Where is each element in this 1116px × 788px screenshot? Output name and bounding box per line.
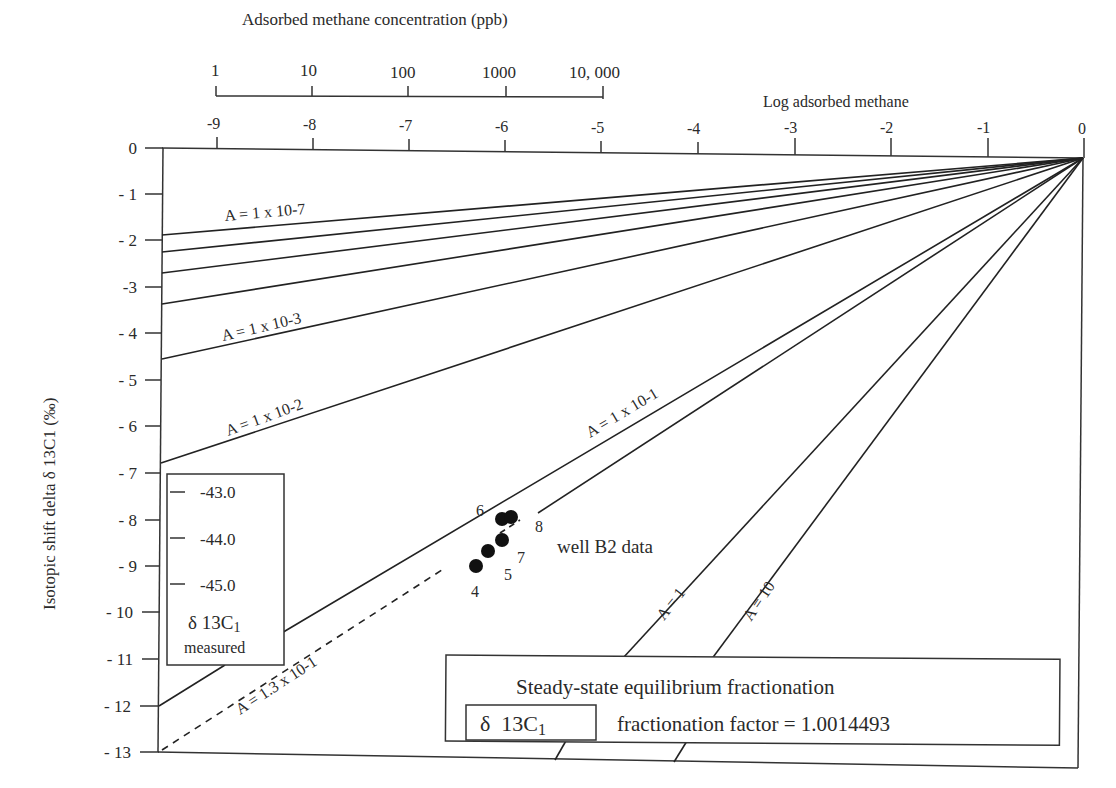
point-label-6: 6 xyxy=(476,502,484,519)
log-tick-m3: -3 xyxy=(784,119,797,136)
inset-tick-43: -43.0 xyxy=(200,483,235,502)
data-point-5 xyxy=(481,544,495,558)
line-a-1b xyxy=(623,158,1083,658)
y-tick-6: - 6 xyxy=(119,417,137,436)
conc-tick-10: 10 xyxy=(300,61,317,80)
y-tick-10: - 10 xyxy=(106,603,133,622)
concentration-axis: Adsorbed methane concentration (ppb) 1 1… xyxy=(211,10,620,99)
y-tick-8: - 8 xyxy=(119,511,137,530)
point-label-7: 7 xyxy=(517,549,525,566)
annotation-line2: fractionation factor = 1.0014493 xyxy=(617,712,890,736)
inset-tick-45: -45.0 xyxy=(200,576,235,595)
line-a-1e-7 xyxy=(162,158,1083,235)
log-tick-m6: -6 xyxy=(495,118,508,135)
log-tick-m4: -4 xyxy=(687,120,700,137)
log-tick-m5: -5 xyxy=(591,119,604,136)
fractionation-annotation-box: Steady-state equilibrium fractionation δ… xyxy=(445,655,1060,745)
data-point-8 xyxy=(504,510,518,524)
line-a-1e-3 xyxy=(162,158,1083,359)
annotation-line1: Steady-state equilibrium fractionation xyxy=(516,675,835,699)
label-a-1: A = 1 xyxy=(653,584,688,623)
log-tick-0: 0 xyxy=(1078,120,1086,137)
conc-tick-1000: 1000 xyxy=(482,63,516,82)
y-tick-0: 0 xyxy=(129,139,138,158)
line-a-1e-1b xyxy=(280,158,1083,634)
line-a-1e-1 xyxy=(159,665,225,706)
line-a-10 xyxy=(674,741,687,762)
y-tick-11: - 11 xyxy=(107,650,133,669)
well-b2-data: 4 5 7 6 8 well B2 data xyxy=(469,502,654,600)
y-axis-title: Isotopic shift delta δ 13C1 (‰) xyxy=(40,398,59,610)
line-labels: A = 1 x 10-7 A = 1 x 10-3 A = 1 x 10-2 A… xyxy=(220,200,778,718)
log-tick-m1: -1 xyxy=(977,119,990,136)
y-axis: 0 - 1 - 2 -3 - 4 - 5 - 6 - 7 - 8 - 9 - 1… xyxy=(40,139,163,762)
annotation-delta-symbol: δ 13C1 xyxy=(480,711,546,738)
label-a-1e-3: A = 1 x 10-3 xyxy=(220,309,303,344)
label-a-1e-2: A = 1 x 10-2 xyxy=(223,395,305,439)
y-tick-1: - 1 xyxy=(119,185,137,204)
y-tick-2: - 2 xyxy=(119,231,137,250)
y-tick-4: - 4 xyxy=(119,324,138,343)
y-tick-9: - 9 xyxy=(119,557,137,576)
point-label-5: 5 xyxy=(504,566,512,583)
log-tick-m7: -7 xyxy=(399,117,412,134)
point-label-4: 4 xyxy=(471,583,479,600)
conc-tick-10000: 10, 000 xyxy=(569,63,620,82)
concentration-axis-title: Adsorbed methane concentration (ppb) xyxy=(242,10,508,29)
inset-measured-label: measured xyxy=(184,639,245,656)
line-a-1e-4 xyxy=(162,158,1083,304)
inset-measured-scale: -43.0 -44.0 -45.0 δ 13C1 measured xyxy=(167,474,284,665)
y-tick-13: - 13 xyxy=(104,743,131,762)
label-a-1e-7: A = 1 x 10-7 xyxy=(224,200,306,224)
data-point-7 xyxy=(495,533,509,547)
conc-tick-100: 100 xyxy=(390,63,416,82)
label-a-10: A = 10 xyxy=(739,578,778,624)
line-a-1e-1c xyxy=(538,158,1083,513)
well-b2-label: well B2 data xyxy=(557,536,654,557)
conc-tick-1: 1 xyxy=(211,61,220,80)
y-tick-7: - 7 xyxy=(119,464,138,483)
log-axis-title: Log adsorbed methane xyxy=(763,93,909,111)
data-point-4 xyxy=(469,559,483,573)
y-tick-5: - 5 xyxy=(119,371,137,390)
y-tick-12: - 12 xyxy=(104,697,131,716)
log-tick-m8: -8 xyxy=(303,116,316,133)
log-tick-m2: -2 xyxy=(880,119,893,136)
log-axis: Log adsorbed methane -9 -8 -7 -6 -5 -4 -… xyxy=(162,93,1086,158)
point-label-8: 8 xyxy=(535,518,543,535)
chart: Adsorbed methane concentration (ppb) 1 1… xyxy=(0,0,1116,788)
y-tick-3: -3 xyxy=(123,278,137,297)
inset-tick-44: -44.0 xyxy=(200,530,235,549)
inset-delta-label: δ 13C1 xyxy=(188,612,240,635)
log-tick-m9: -9 xyxy=(207,115,220,132)
